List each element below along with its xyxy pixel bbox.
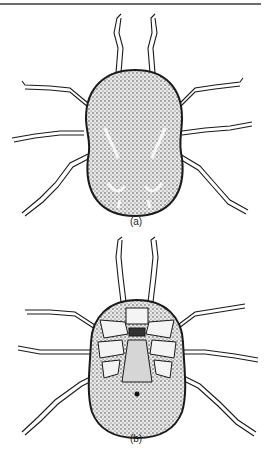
top-rule-divider (0, 3, 261, 5)
panel-label-b: (b) (0, 433, 272, 444)
mite-dorsal-illustration (0, 8, 272, 230)
panel-label-a: (a) (0, 216, 272, 227)
mite-ventral-illustration (0, 232, 272, 459)
figure-panel-a: (a) (0, 8, 272, 230)
dorsal-body-shape (86, 70, 183, 216)
figure-panel-b: (b) (0, 232, 272, 459)
anal-pore (135, 392, 140, 397)
